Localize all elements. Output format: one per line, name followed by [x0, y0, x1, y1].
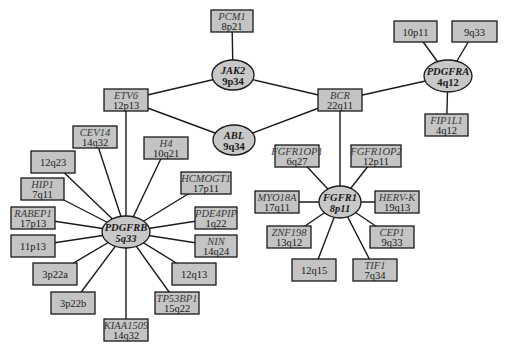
- locus-label: 12p13: [113, 100, 139, 111]
- gene-node-h4: H410q21: [144, 137, 188, 159]
- locus-label: 1q22: [206, 218, 227, 229]
- gene-node-fgfr1op2: FGFR1OP212p11: [349, 145, 402, 167]
- partner-nodes-layer: PCM18p21ETV612p13BCR22q1110p119q33FIP1L1…: [11, 10, 497, 341]
- locus-label: 17q11: [264, 202, 290, 213]
- gene-node-pcm1: PCM18p21: [211, 10, 253, 32]
- hub-gene-label: PDGFRA: [427, 66, 470, 77]
- gene-node-bcr: BCR22q11: [318, 89, 362, 111]
- gene-node-3p22a: 3p22a: [33, 263, 77, 285]
- locus-label: 8p21: [222, 21, 243, 32]
- gene-node-nin: NIN14q24: [195, 235, 237, 257]
- locus-label: 12q15: [301, 265, 327, 276]
- edges-layer: [33, 21, 475, 330]
- locus-label: 4q12: [436, 125, 457, 136]
- locus-label: 13q12: [276, 237, 302, 248]
- gene-node-9q33a: 9q33: [452, 21, 497, 42]
- locus-label: 6q27: [287, 156, 308, 167]
- hub-locus-label: 5q33: [116, 233, 137, 244]
- gene-node-kiaa1509: KIAA150914q32: [103, 319, 149, 341]
- locus-label: 12q13: [181, 269, 207, 280]
- gene-node-tp53bp1: TP53BP115q22: [155, 292, 199, 314]
- gene-node-fip1l1: FIP1L14q12: [425, 114, 468, 136]
- hub-node-fgfr1: FGFR18p11: [319, 186, 361, 218]
- hub-node-jak2: JAK29p34: [212, 60, 254, 90]
- hub-node-pdgfra: PDGFRA4q12: [424, 60, 472, 92]
- gene-node-12q23: 12q23: [31, 151, 75, 173]
- gene-node-cep1: CEP19q33: [370, 226, 414, 248]
- gene-node-10p11: 10p11: [394, 21, 437, 42]
- hub-node-abl: ABL9q34: [213, 125, 255, 155]
- locus-label: 22q11: [327, 100, 353, 111]
- locus-label: 14q24: [203, 246, 230, 257]
- locus-label: 15q22: [164, 303, 190, 314]
- locus-label: 10q21: [153, 148, 179, 159]
- locus-label: 19q13: [384, 202, 410, 213]
- hub-locus-label: 8p11: [330, 203, 350, 214]
- locus-label: 3p22b: [60, 298, 86, 309]
- locus-label: 3p22a: [42, 269, 68, 280]
- hub-node-pdgfrb: PDGFRB5q33: [102, 216, 150, 248]
- gene-node-12q13: 12q13: [172, 263, 216, 285]
- locus-label: 17p11: [193, 183, 219, 194]
- locus-label: 9q33: [464, 27, 485, 38]
- gene-node-myo18a: MYO18A17q11: [255, 191, 299, 213]
- gene-node-pde4pip: PDE4PIP1q22: [194, 207, 238, 229]
- hub-gene-label: ABL: [223, 130, 244, 141]
- gene-node-11p13: 11p13: [11, 235, 55, 257]
- hub-gene-label: PDGFRB: [105, 222, 148, 233]
- gene-node-rabep1: RABEP117p13: [11, 207, 55, 229]
- gene-node-herv-k: HERV-K19q13: [375, 191, 419, 213]
- locus-label: 7q11: [32, 189, 53, 200]
- gene-node-tif1: TIF17q34: [353, 259, 397, 281]
- hub-locus-label: 9p34: [222, 76, 244, 87]
- fusion-gene-network-diagram: PCM18p21ETV612p13BCR22q1110p119q33FIP1L1…: [0, 0, 512, 351]
- gene-node-etv6: ETV612p13: [104, 89, 148, 111]
- gene-node-fgfr1op1: FGFR1OP16q27: [270, 145, 322, 167]
- hub-gene-label: FGFR1: [322, 192, 357, 203]
- gene-node-hcmogt1: HCMOGT117p11: [180, 172, 231, 194]
- locus-label: 17p13: [20, 218, 46, 229]
- hub-locus-label: 4q12: [437, 77, 459, 88]
- locus-label: 12p11: [363, 156, 389, 167]
- locus-label: 14q32: [113, 330, 139, 341]
- gene-node-znf198: ZNF19813q12: [267, 226, 311, 248]
- gene-node-12q15: 12q15: [292, 259, 336, 281]
- locus-label: 7q34: [365, 270, 387, 281]
- gene-node-3p22b: 3p22b: [51, 292, 95, 314]
- gene-node-hip1: HIP17q11: [21, 178, 64, 200]
- locus-label: 14q32: [82, 137, 108, 148]
- locus-label: 12q23: [40, 157, 66, 168]
- locus-label: 11p13: [20, 241, 46, 252]
- gene-node-cev14: CEV1414q32: [73, 126, 117, 148]
- hub-locus-label: 9q34: [223, 141, 245, 152]
- locus-label: 9q33: [382, 237, 403, 248]
- hub-gene-label: JAK2: [220, 65, 246, 76]
- locus-label: 10p11: [403, 27, 429, 38]
